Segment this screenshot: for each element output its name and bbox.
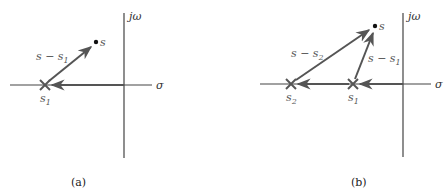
pole-s2-label: s2 xyxy=(286,91,297,106)
pole-vector-diagram: σ jω s s − s1 s1 (a) σ jω xyxy=(0,0,447,195)
panel-a: σ jω s s − s1 s1 (a) xyxy=(10,10,164,189)
vector-s2-label: s − s2 xyxy=(291,47,324,62)
point-s-label: s xyxy=(100,36,106,49)
caption-b: (b) xyxy=(351,176,367,189)
vector-label: s − s1 xyxy=(36,50,69,65)
jomega-label: jω xyxy=(405,10,420,23)
pole-s1-label: s1 xyxy=(40,92,51,107)
sigma-label: σ xyxy=(156,79,164,92)
point-s-label: s xyxy=(379,20,385,33)
jomega-label: jω xyxy=(126,10,141,23)
point-s xyxy=(373,24,377,28)
caption-a: (a) xyxy=(71,176,86,189)
vector-s1-label: s − s1 xyxy=(368,52,401,67)
point-s xyxy=(94,40,98,44)
pole-s1-label: s1 xyxy=(348,91,359,106)
sigma-label: σ xyxy=(435,78,443,91)
panel-b: σ jω s s − s2 s − s1 s2 s1 (b) xyxy=(260,10,443,189)
